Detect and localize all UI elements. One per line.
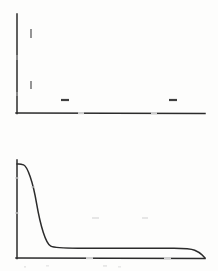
curve-scan-gap-3 — [142, 217, 148, 219]
curve-scan-gap-2 — [92, 217, 99, 219]
bottom-x-tick-break-2 — [164, 257, 171, 259]
top-panel-svg — [0, 0, 218, 135]
top-x-tick-break-1 — [78, 112, 84, 114]
scan-speckle — [24, 266, 26, 268]
bottom-y-tick-1 — [15, 177, 19, 179]
scan-speckle — [16, 55, 18, 60]
scan-speckle — [16, 92, 18, 96]
bottom-x-axis — [16, 258, 205, 259]
curve-scan-gap-1 — [31, 186, 35, 188]
top-x-axis — [16, 113, 205, 114]
bottom-x-tick-break-1 — [86, 257, 93, 259]
bottom-panel-svg — [0, 135, 218, 271]
top-x-tick-break-2 — [151, 112, 157, 114]
bottom-step-decay-curve — [17, 164, 205, 258]
scan-speckle — [46, 265, 49, 267]
chart-panel-top — [0, 0, 218, 135]
scan-speckle — [103, 265, 107, 267]
bottom-y-tick-2 — [15, 212, 19, 214]
scan-speckle — [118, 266, 121, 268]
chart-panel-bottom — [0, 135, 218, 271]
scanned-figure — [0, 0, 218, 271]
